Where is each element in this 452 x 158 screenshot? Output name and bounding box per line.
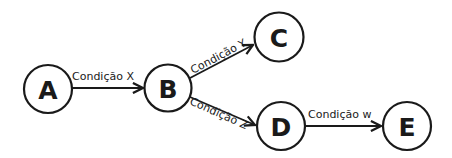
node-b-label: B [158,75,177,104]
node-b: B [145,65,192,112]
node-c: C [255,13,304,62]
edge-a-b: Condição X [72,70,143,88]
edge-label-condicao-z: Condição Z [188,95,250,132]
edge-label-condicao-y: Condição Y [188,36,248,76]
node-a-label: A [38,76,58,105]
edge-label-condicao-w: Condição w [308,108,371,121]
node-c-label: C [270,24,288,53]
edge-d-e: Condição w [305,108,381,126]
node-e-label: E [398,113,415,142]
edge-b-c: Condição Y [188,36,253,78]
node-e: E [383,102,431,150]
edge-label-condicao-x: Condição X [72,70,134,83]
node-a: A [24,65,72,113]
node-d: D [257,102,305,150]
flow-diagram: Condição X Condição Y Condição Z Condiçã… [0,0,452,158]
node-d-label: D [271,113,292,142]
edge-b-d: Condição Z [188,95,255,132]
